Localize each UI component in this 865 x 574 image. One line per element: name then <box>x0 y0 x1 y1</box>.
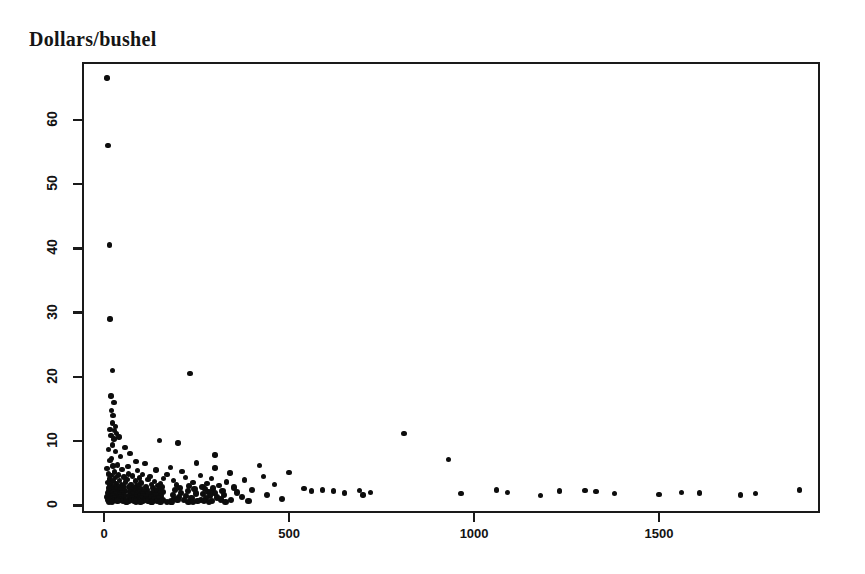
x-axis-tick <box>103 513 106 522</box>
y-axis-tick <box>73 376 82 379</box>
page-title: Dollars/bushel <box>29 28 157 51</box>
y-axis-tick-label: 0 <box>44 489 60 519</box>
y-axis-tick <box>73 504 82 507</box>
y-axis-tick <box>73 311 82 314</box>
x-axis-tick-label: 1000 <box>444 526 504 541</box>
y-axis-tick-label: 50 <box>44 168 60 198</box>
y-axis-tick-label: 40 <box>44 232 60 262</box>
y-axis-tick-label: 20 <box>44 361 60 391</box>
x-axis-tick-label: 0 <box>74 526 134 541</box>
y-axis-tick <box>73 119 82 122</box>
y-axis-tick-label: 10 <box>44 425 60 455</box>
x-axis-tick-label: 1500 <box>629 526 689 541</box>
y-axis-tick-label: 60 <box>44 104 60 134</box>
x-axis-tick <box>288 513 291 522</box>
scatter-plot-figure: Dollars/bushel 0102030405060 05001000150… <box>0 0 865 574</box>
x-axis-tick <box>658 513 661 522</box>
y-axis-tick-label: 30 <box>44 297 60 327</box>
y-axis-tick <box>73 440 82 443</box>
plot-frame <box>82 62 820 513</box>
y-axis-tick <box>73 183 82 186</box>
x-axis-tick <box>473 513 476 522</box>
x-axis-tick-label: 500 <box>259 526 319 541</box>
y-axis-tick <box>73 247 82 250</box>
